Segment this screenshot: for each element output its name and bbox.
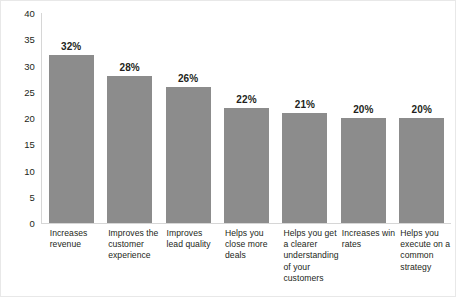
x-axis-labels: Increases revenue Improves the customer … <box>42 228 451 294</box>
x-axis-category-label: Improves lead quality <box>167 228 221 250</box>
bar-slot: 20% <box>341 13 386 223</box>
y-axis-tick: 15 <box>24 139 35 150</box>
bar-value-label: 28% <box>107 62 152 73</box>
bar[interactable] <box>341 118 386 223</box>
bar-value-label: 20% <box>341 104 386 115</box>
bar-value-label: 26% <box>166 73 211 84</box>
x-axis-category-label: Helps you execute on a common strategy <box>400 228 454 273</box>
bar-value-label: 22% <box>224 94 269 105</box>
bar-value-label: 20% <box>399 104 444 115</box>
x-axis-category-label: Helps you close more deals <box>225 228 279 262</box>
bar[interactable] <box>224 108 269 224</box>
bar-slot: 26% <box>166 13 211 223</box>
bar[interactable] <box>166 87 211 224</box>
bar-slot: 32% <box>49 13 94 223</box>
bar[interactable] <box>107 76 152 223</box>
y-axis: 40 35 30 25 20 15 10 5 0 <box>1 1 41 297</box>
y-axis-tick: 10 <box>24 165 35 176</box>
bar[interactable] <box>282 113 327 223</box>
x-axis-category-label: Increases win rates <box>342 228 396 250</box>
y-axis-tick: 40 <box>24 8 35 19</box>
y-axis-tick: 20 <box>24 113 35 124</box>
y-axis-tick: 35 <box>24 34 35 45</box>
y-axis-tick: 5 <box>30 191 35 202</box>
bar-slot: 28% <box>107 13 152 223</box>
bar-slot: 21% <box>282 13 327 223</box>
bar-slot: 22% <box>224 13 269 223</box>
bar-chart: 40 35 30 25 20 15 10 5 0 32% 28% 26% 22%… <box>0 0 456 297</box>
x-axis-baseline <box>41 223 451 224</box>
bar-value-label: 32% <box>49 41 94 52</box>
y-axis-tick: 30 <box>24 60 35 71</box>
bar[interactable] <box>49 55 94 223</box>
bar-slot: 20% <box>399 13 444 223</box>
bar-value-label: 21% <box>282 99 327 110</box>
x-axis-category-label: Improves the customer experience <box>108 228 162 262</box>
x-axis-category-label: Increases revenue <box>50 228 104 250</box>
plot-area: 32% 28% 26% 22% 21% 20% 20% <box>42 13 451 223</box>
y-axis-tick: 0 <box>30 218 35 229</box>
x-axis-category-label: Helps you get a clearer understanding of… <box>283 228 337 284</box>
y-axis-tick: 25 <box>24 86 35 97</box>
bar[interactable] <box>399 118 444 223</box>
